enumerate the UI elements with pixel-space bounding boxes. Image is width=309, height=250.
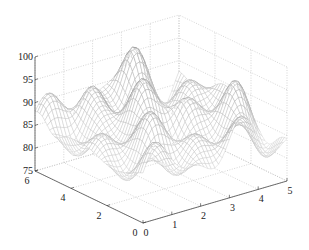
z-tick-label: 90 [23, 97, 33, 108]
x-tick-label: 4 [259, 193, 264, 204]
z-tick-label: 80 [23, 142, 33, 153]
mesh-surface [35, 47, 287, 180]
x-tick-label: 3 [230, 202, 235, 213]
x-tick-label: 2 [201, 210, 206, 221]
surface-plot: 01234502467580859095100 [0, 0, 309, 250]
z-tick-label: 100 [18, 51, 33, 62]
x-tick-label: 1 [172, 219, 177, 230]
y-tick-label: 4 [61, 192, 66, 203]
grid-line [35, 15, 179, 57]
grid-line [179, 15, 287, 67]
grid-line [35, 38, 179, 80]
y-tick-label: 6 [25, 175, 30, 186]
z-tick-label: 85 [23, 119, 33, 130]
z-tick-label: 75 [23, 165, 33, 176]
x-axis-line [143, 181, 287, 223]
z-tick-label: 95 [23, 74, 33, 85]
x-tick-label: 5 [288, 185, 293, 196]
y-tick-label: 2 [97, 210, 102, 221]
y-tick-label: 0 [133, 227, 138, 238]
x-tick-label: 0 [144, 227, 149, 238]
